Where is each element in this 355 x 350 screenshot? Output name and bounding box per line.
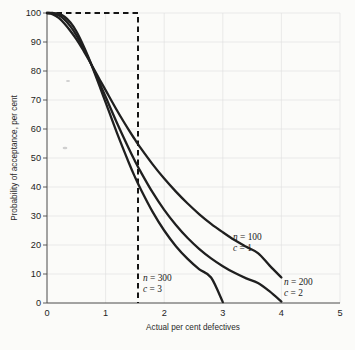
- ytick-label-20: 20: [31, 240, 41, 250]
- annotation-n200-line1: n = 200: [284, 277, 313, 287]
- xtick-label-1: 1: [103, 308, 108, 318]
- xtick-label-2: 2: [162, 308, 167, 318]
- x-axis-title: Actual per cent defectives: [146, 323, 240, 332]
- xtick-label-5: 5: [337, 308, 342, 318]
- ytick-label-10: 10: [31, 269, 41, 279]
- paper-speck-2: [63, 147, 68, 150]
- paper-speck-1: [66, 80, 70, 82]
- ytick-label-100: 100: [26, 8, 41, 18]
- xtick-label-0: 0: [44, 308, 49, 318]
- xtick-label-4: 4: [279, 308, 284, 318]
- xtick-label-3: 3: [220, 308, 225, 318]
- ytick-label-40: 40: [31, 182, 41, 192]
- annotation-n300-line2: c = 3: [143, 284, 162, 294]
- y-axis-title: Probability of acceptance, per cent: [10, 94, 19, 220]
- ytick-label-30: 30: [31, 211, 41, 221]
- annotation-n200-line2: c = 2: [284, 288, 303, 298]
- ytick-label-80: 80: [31, 66, 41, 76]
- ytick-label-50: 50: [31, 153, 41, 163]
- annotation-n300-line1: n = 300: [143, 273, 172, 283]
- ytick-label-70: 70: [31, 95, 41, 105]
- ytick-label-60: 60: [31, 124, 41, 134]
- annotation-n100-line1: n = 100: [233, 232, 262, 242]
- ytick-label-0: 0: [36, 298, 41, 308]
- ytick-label-90: 90: [31, 37, 41, 47]
- oc-curve-chart: 100 90 80 70 60 50 40 30 20 10 0 0 1 2 3…: [0, 0, 355, 350]
- annotation-n100-line2: c = 1: [233, 243, 252, 253]
